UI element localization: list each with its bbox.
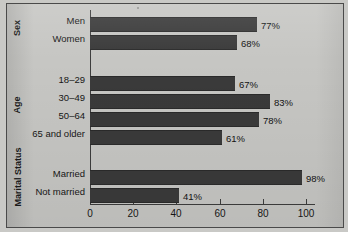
bar-value-50-64: 78% [263,116,282,126]
bar-value-65-and-older: 61% [226,134,245,144]
bar-50-64 [90,112,259,127]
bar-value-men: 77% [261,21,280,31]
group-label-sex-text: Sex [12,20,22,36]
x-tick-label-60: 60 [214,208,225,219]
x-tick-label-20: 20 [127,208,138,219]
bar-65-and-older [90,130,222,145]
category-label-65-and-older: 65 and older [25,129,85,139]
category-label-18-29: 18–29 [25,75,85,85]
x-tick-label-100: 100 [298,208,315,219]
bar-value-not-married: 41% [183,192,202,202]
x-tick-100 [306,199,307,205]
x-tick-80 [263,199,264,205]
category-label-50-64: 50–64 [25,111,85,121]
scan-speck [137,7,139,9]
category-label-30-49: 30–49 [25,93,85,103]
plot-area: 0 20 40 60 80 100 77% 68% 67% 83% 78% 61… [90,10,315,205]
x-tick-label-40: 40 [170,208,181,219]
group-label-age: Age [7,70,27,140]
group-label-marital-status: Marital Status [7,146,27,208]
category-label-column: Men Women 18–29 30–49 50–64 65 and older… [25,4,85,227]
bar-18-29 [90,76,235,91]
group-label-age-text: Age [12,96,22,113]
bar-30-49 [90,94,270,109]
bar-women [90,35,237,50]
bar-value-18-29: 67% [239,80,258,90]
bar-value-30-49: 83% [274,98,293,108]
bar-men [90,17,257,32]
x-tick-60 [220,199,221,205]
bar-value-women: 68% [241,39,260,49]
bar-married [90,170,302,185]
category-label-married: Married [25,169,85,179]
x-tick-label-0: 0 [87,208,93,219]
category-label-men: Men [25,16,85,26]
x-tick-label-80: 80 [257,208,268,219]
category-label-women: Women [25,34,85,44]
chart-paper-background: Sex Age Marital Status Men Women 18–29 3… [6,3,344,228]
bar-chart-figure: Sex Age Marital Status Men Women 18–29 3… [0,0,348,232]
group-label-sex: Sex [7,10,27,46]
bar-not-married [90,188,179,203]
bar-value-married: 98% [306,174,325,184]
x-axis-line [90,204,315,205]
category-label-not-married: Not married [25,187,85,197]
group-label-marital-status-text: Marital Status [12,147,22,206]
